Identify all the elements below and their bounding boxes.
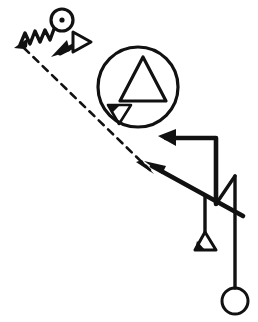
pendulum-end-circle [222, 288, 248, 314]
hollow-arrowhead-upper-right [73, 32, 91, 52]
thick-diagonal-arrow-line [152, 166, 243, 216]
sketch-diagram [0, 0, 258, 322]
diagram-canvas [0, 0, 258, 322]
large-enclosing-circle [98, 47, 178, 127]
large-up-triangle [120, 57, 166, 101]
upper-polyline-arrowhead [158, 129, 176, 146]
dashed-diagonal-line [24, 48, 150, 170]
upper-bracket-polyline [166, 138, 216, 204]
center-dot-icon [59, 17, 64, 22]
right-angle-connector [216, 176, 235, 204]
